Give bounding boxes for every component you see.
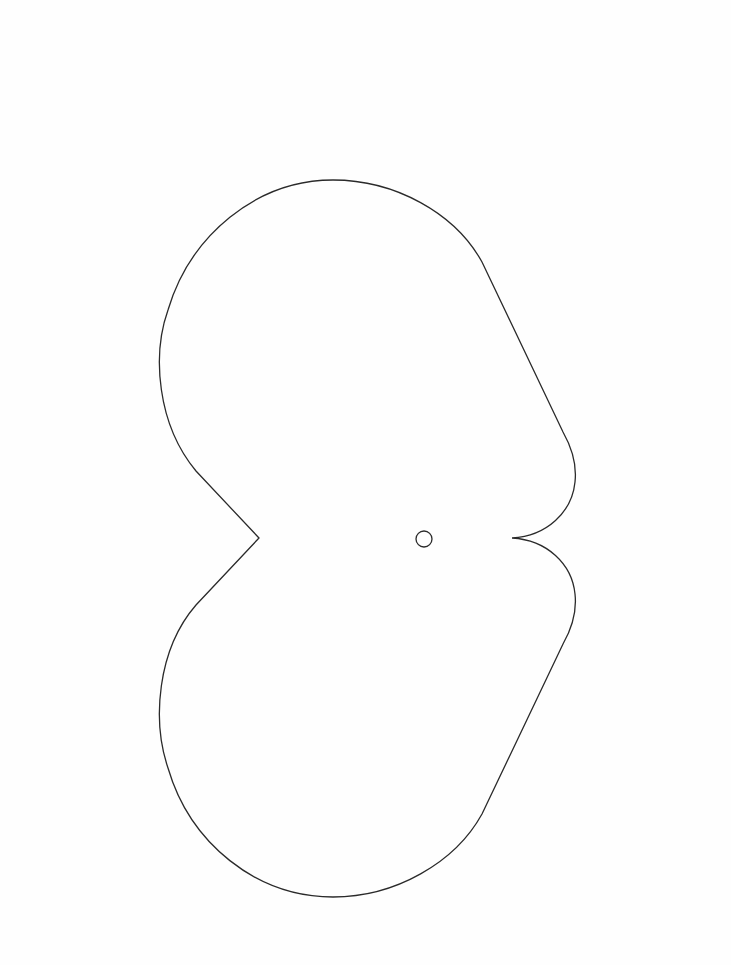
sideways-heart-outline	[159, 180, 575, 897]
heart-template-drawing	[0, 0, 731, 965]
center-hole-circle	[416, 531, 432, 547]
page-canvas	[0, 0, 731, 965]
